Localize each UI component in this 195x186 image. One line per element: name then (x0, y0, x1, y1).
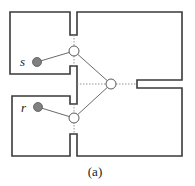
endpoint-s (33, 58, 42, 67)
waypoint-door-top (69, 46, 79, 56)
edge-doorbottom-r (38, 107, 74, 118)
label-s: s (20, 54, 25, 69)
endpoint-r (34, 103, 43, 112)
waypoint-door-right (106, 79, 116, 89)
edge-doortop-doorright (74, 51, 111, 84)
waypoint-door-bottom (69, 113, 79, 123)
edge-doorright-doorbottom (74, 84, 111, 118)
edge-s-doortop (37, 51, 74, 62)
floorplan-diagram: s r (a) (0, 0, 195, 186)
figure-caption: (a) (88, 164, 102, 179)
label-r: r (21, 100, 27, 115)
